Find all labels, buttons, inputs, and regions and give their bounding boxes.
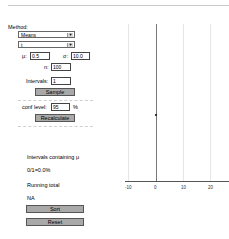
intervals-containing-value: 0/1=0.0% bbox=[27, 167, 50, 173]
gridline bbox=[128, 24, 129, 182]
tick-label: 20 bbox=[208, 185, 213, 190]
percent-label: % bbox=[73, 104, 78, 110]
tick-label: -10 bbox=[125, 185, 132, 190]
intervals-label: Intervals: bbox=[26, 78, 48, 84]
divider bbox=[18, 126, 93, 127]
chevron-down-icon: ▼ bbox=[67, 33, 73, 37]
tick-label: 0 bbox=[154, 185, 157, 190]
running-total-label: Running total bbox=[27, 182, 59, 188]
interval-marker bbox=[155, 114, 157, 116]
gridline bbox=[183, 24, 184, 182]
sigma-label: σ: bbox=[63, 53, 68, 59]
mu-label: μ: bbox=[22, 53, 27, 59]
mu-reference-line bbox=[156, 24, 157, 182]
conf-level-label: conf level: bbox=[22, 104, 47, 110]
distribution-select[interactable]: t ▼ bbox=[18, 41, 75, 48]
sort-button[interactable]: Sort bbox=[26, 205, 84, 213]
intervals-containing-label: Intervals containing μ bbox=[27, 154, 79, 160]
conf-level-input[interactable]: 95 bbox=[51, 103, 70, 111]
method-label: Method: bbox=[8, 24, 28, 30]
divider bbox=[18, 100, 93, 101]
chevron-down-icon: ▼ bbox=[67, 43, 73, 47]
sigma-input[interactable]: 10.0 bbox=[71, 52, 90, 60]
n-label: n: bbox=[44, 64, 49, 70]
method-select[interactable]: Means ▼ bbox=[18, 31, 75, 38]
reset-button[interactable]: Reset bbox=[26, 218, 84, 226]
sample-button[interactable]: Sample bbox=[35, 88, 75, 96]
mu-input[interactable]: 0.5 bbox=[30, 52, 50, 60]
method-select-value: Means bbox=[21, 32, 36, 38]
distribution-select-value: t bbox=[21, 42, 22, 48]
n-input[interactable]: 100 bbox=[51, 63, 71, 71]
gridline bbox=[210, 24, 211, 182]
recalculate-button[interactable]: Recalculate bbox=[35, 114, 75, 122]
x-axis bbox=[125, 181, 229, 182]
tick-label: 10 bbox=[181, 185, 186, 190]
intervals-input[interactable]: 1 bbox=[51, 77, 71, 85]
running-total-value: NA bbox=[27, 195, 35, 201]
top-divider bbox=[8, 5, 229, 6]
